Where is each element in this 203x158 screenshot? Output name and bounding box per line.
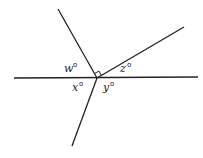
degree-w: o [73, 61, 77, 69]
degree-z: o [127, 61, 131, 69]
ray-upper-right [97, 27, 184, 78]
degree-x: o [79, 80, 83, 88]
angle-label-y: y [102, 81, 110, 94]
angle-label-x: x [72, 81, 79, 94]
angle-label-z: z [119, 62, 126, 75]
angle-diagram: w o z o x o y o [0, 0, 203, 158]
horizontal-line [14, 77, 198, 78]
degree-y: o [110, 80, 114, 88]
